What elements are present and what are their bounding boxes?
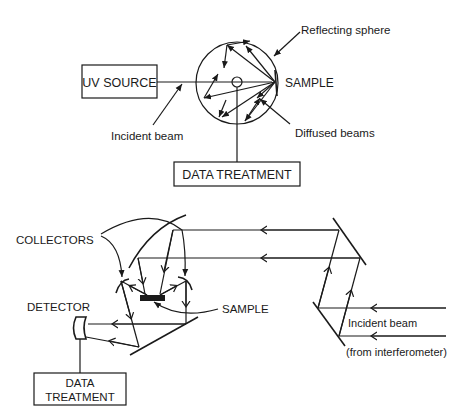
- incident-beam-label-bottom: Incident beam: [348, 317, 417, 329]
- focusing-mirror: [129, 215, 186, 268]
- diagram-svg: UV SOURCE DATA TREATMENT: [0, 0, 476, 418]
- sample-label-bottom: SAMPLE: [222, 303, 269, 315]
- diffused-leader: [260, 99, 290, 124]
- sphere-leader: [274, 32, 300, 56]
- from-interferometer-label: (from interferometer): [346, 346, 447, 358]
- data-treatment-box-top: DATA TREATMENT: [174, 162, 300, 186]
- plane-mirror-detector: [130, 317, 198, 355]
- diffused-beams-label: Diffused beams: [295, 127, 375, 139]
- collectors-leader-left: [101, 236, 122, 277]
- data-treatment-box-bottom: DATA TREATMENT: [34, 373, 126, 405]
- detector-label: DETECTOR: [27, 301, 90, 313]
- detector: [74, 317, 87, 339]
- uv-source-box: UV SOURCE: [82, 65, 157, 98]
- collectors-label: COLLECTORS: [16, 234, 94, 246]
- uv-source-label: UV SOURCE: [82, 76, 156, 90]
- data-treatment-label-top: DATA TREATMENT: [182, 168, 292, 182]
- diffuse-reflectance-diagram: UV SOURCE DATA TREATMENT: [0, 0, 476, 418]
- reflecting-sphere-label: Reflecting sphere: [301, 24, 391, 36]
- sample-block: [140, 295, 165, 301]
- sample-label-top: SAMPLE: [285, 76, 334, 90]
- integrating-sphere-setup: UV SOURCE DATA TREATMENT: [82, 24, 391, 186]
- data-treatment-line2: TREATMENT: [45, 391, 114, 403]
- data-treatment-line1: DATA: [66, 377, 95, 389]
- ftir-diffuse-setup: DATA TREATMENT COLLECTORS SAMPLE DETECTO…: [16, 215, 447, 405]
- incident-beam-label-top: Incident beam: [111, 130, 183, 142]
